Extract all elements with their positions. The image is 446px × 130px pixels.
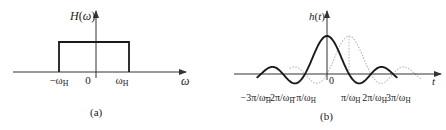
tick-labels-a: −ωH0ωH — [49, 74, 128, 88]
caption-b: (b) — [320, 110, 333, 123]
tick-label: 3π/ωH — [386, 92, 411, 105]
y-axis-label-b: h(t) — [309, 10, 325, 23]
tick-label: −ωH — [49, 74, 68, 88]
shifted-sinc-curve — [290, 36, 422, 83]
caption-a: (a) — [90, 106, 103, 119]
tick-label: 0 — [85, 74, 91, 86]
panel-a: H(ω) ω −ωH0ωH (a) — [13, 9, 189, 119]
panel-b: h(t) t 0 −3π/ωH−2π/ωH−π/ωHπ/ωH2π/ωH3π/ωH… — [234, 10, 441, 123]
tick-label: ωH — [116, 74, 129, 88]
figure-canvas: H(ω) ω −ωH0ωH (a) h(t) t 0 −3π/ωH−2π/ωH−… — [0, 0, 446, 130]
tick-labels-b: −3π/ωH−2π/ωH−π/ωHπ/ωH2π/ωH3π/ωH — [241, 92, 411, 105]
tick-label: 2π/ωH — [362, 92, 387, 105]
rect-spectrum — [59, 42, 129, 72]
x-axis-label-a: ω — [181, 74, 189, 88]
x-axis-label-b: t — [432, 75, 436, 87]
origin-label-b: 0 — [329, 75, 334, 86]
y-axis-label-a: H(ω) — [69, 9, 95, 23]
tick-label: π/ωH — [341, 92, 361, 105]
